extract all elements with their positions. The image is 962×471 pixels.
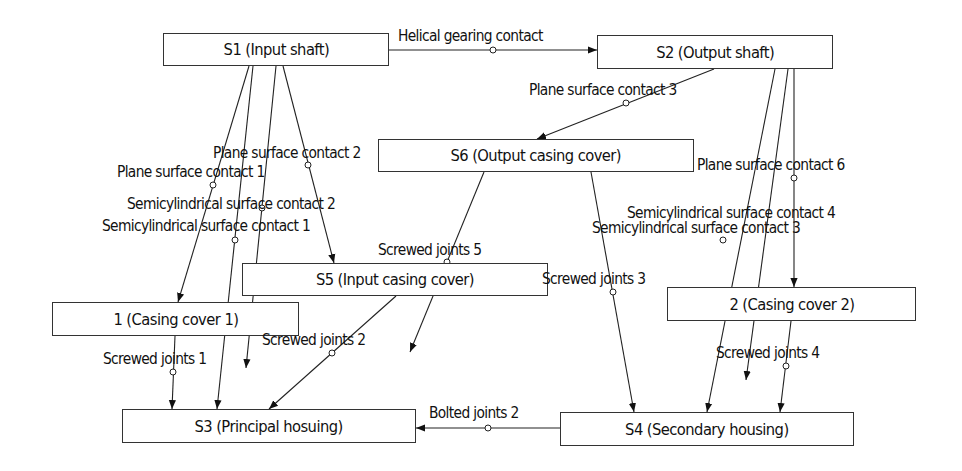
liaison-marker-icon [210, 182, 216, 188]
edge-label: Bolted joints 2 [429, 405, 519, 421]
edge-label: Plane surface contact 3 [529, 82, 677, 98]
liaison-diagram: S1 (Input shaft)S2 (Output shaft)S6 (Out… [0, 0, 962, 471]
edge-label: Semicylindrical surface contact 4 [627, 205, 835, 221]
node-label: S5 (Input casing cover) [316, 270, 474, 289]
edge-label: Screwed joints 5 [378, 242, 481, 258]
node-label: S3 (Principal hosuing) [195, 417, 343, 436]
node-s5: S5 (Input casing cover) [242, 263, 548, 296]
liaison-marker-icon [232, 237, 238, 243]
liaison-marker-icon [610, 289, 616, 295]
liaison-marker-icon [720, 237, 726, 243]
edge-label: Screwed joints 1 [103, 351, 206, 367]
node-label: S1 (Input shaft) [223, 40, 329, 59]
liaison-marker-icon [791, 175, 797, 181]
node-label: 2 (Casing cover 2) [729, 295, 854, 314]
edge-label: Screwed joints 2 [262, 332, 365, 348]
edge-label: Plane surface contact 2 [213, 145, 361, 161]
node-c2: 2 (Casing cover 2) [667, 287, 916, 321]
edge-label: Semicylindrical surface contact 1 [102, 218, 310, 234]
edge-label: Plane surface contact 6 [697, 157, 845, 173]
node-label: S6 (Output casing cover) [451, 146, 622, 165]
liaison-marker-icon [623, 100, 629, 106]
node-label: S2 (Output shaft) [656, 43, 774, 62]
edge-label: Screwed joints 3 [542, 271, 645, 287]
edge-label: Helical gearing contact [398, 28, 543, 44]
edges-layer [0, 0, 962, 471]
node-s4: S4 (Secondary housing) [560, 412, 854, 446]
liaison-marker-icon [329, 350, 335, 356]
liaison-marker-icon [170, 369, 176, 375]
node-s1: S1 (Input shaft) [163, 33, 389, 66]
liaison-marker-icon [490, 47, 496, 53]
node-label: 1 (Casing cover 1) [113, 310, 238, 329]
edge-label: Semicylindrical surface contact 3 [592, 220, 800, 236]
edge-label: Plane surface contact 1 [117, 164, 265, 180]
liaison-marker-icon [783, 363, 789, 369]
liaison-marker-icon [305, 162, 311, 168]
node-s6: S6 (Output casing cover) [378, 139, 694, 172]
liaison-marker-icon [485, 425, 491, 431]
edge-label: Semicylindrical surface contact 2 [127, 196, 335, 212]
node-s2: S2 (Output shaft) [597, 35, 833, 69]
node-s3: S3 (Principal hosuing) [122, 409, 416, 443]
node-label: S4 (Secondary housing) [625, 420, 788, 439]
edge-label: Screwed joints 4 [716, 345, 819, 361]
